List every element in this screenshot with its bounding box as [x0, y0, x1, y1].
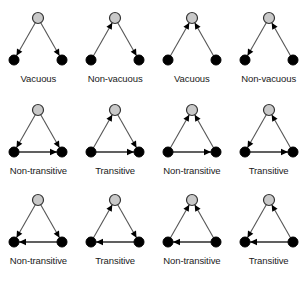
graph-panel-r1c4: Non-vacuous [230, 0, 307, 94]
graph-node-bottom-right [211, 237, 221, 247]
panel-label: Transitive [249, 165, 289, 176]
graph-node-bottom-right [288, 55, 298, 65]
directed-graph [233, 190, 305, 254]
panel-label: Non-vacuous [241, 73, 296, 84]
graph-node-bottom-left [86, 237, 96, 247]
arrow-head-icon [127, 149, 134, 156]
graph-node-bottom-right [134, 147, 144, 157]
arrow-head-icon [173, 239, 180, 246]
directed-graph [233, 8, 305, 72]
directed-graph [156, 8, 228, 72]
directed-graph [79, 100, 151, 164]
graph-node-bottom-left [240, 147, 250, 157]
directed-graph [233, 100, 305, 164]
panel-label: Non-transitive [10, 165, 67, 176]
graph-node-top [33, 13, 44, 24]
panel-label: Transitive [95, 255, 135, 266]
graph-panel-r2c2: Transitive [77, 94, 154, 184]
panel-label: Transitive [249, 255, 289, 266]
arrow-head-icon [19, 239, 26, 246]
panel-label: Vacuous [174, 73, 210, 84]
arrow-head-icon [96, 239, 103, 246]
graph-panel-r2c1: Non-transitive [0, 94, 77, 184]
directed-graph [2, 8, 74, 72]
directed-graph [156, 190, 228, 254]
graph-node-bottom-left [86, 147, 96, 157]
graph-node-bottom-left [9, 147, 19, 157]
arrow-head-icon [204, 149, 211, 156]
graph-node-bottom-left [163, 147, 173, 157]
graph-panel-r3c4: Transitive [230, 184, 307, 277]
arrow-head-icon [250, 239, 257, 246]
directed-graph [156, 100, 228, 164]
graph-node-bottom-left [240, 237, 250, 247]
graph-row-1: Vacuous Non-vacuous Vacuous Non-vacuous [0, 0, 307, 94]
arrow-head-icon [50, 149, 57, 156]
graph-node-bottom-right [57, 55, 67, 65]
graph-panel-r1c3: Vacuous [154, 0, 231, 94]
graph-node-bottom-right [134, 237, 144, 247]
graph-node-bottom-right [288, 147, 298, 157]
graph-panel-r3c2: Transitive [77, 184, 154, 277]
graph-panel-r2c4: Transitive [230, 94, 307, 184]
graph-panel-r3c1: Non-transitive [0, 184, 77, 277]
graph-node-bottom-right [134, 55, 144, 65]
panel-label: Non-transitive [163, 255, 220, 266]
graph-panel-r3c3: Non-transitive [154, 184, 231, 277]
graph-node-bottom-right [57, 237, 67, 247]
directed-graph [2, 190, 74, 254]
graph-node-bottom-right [211, 55, 221, 65]
graph-node-bottom-left [240, 55, 250, 65]
graph-node-top [263, 13, 274, 24]
panel-label: Vacuous [21, 73, 57, 84]
graph-row-3: Non-transitive Transitive Non-transitive… [0, 184, 307, 277]
graph-node-top [110, 195, 121, 206]
graph-panel-r2c3: Non-transitive [154, 94, 231, 184]
graph-node-bottom-right [57, 147, 67, 157]
graph-node-top [110, 105, 121, 116]
arrow-head-icon [281, 149, 288, 156]
directed-graph [79, 190, 151, 254]
directed-graph [79, 8, 151, 72]
graph-node-bottom-left [9, 237, 19, 247]
graph-node-bottom-right [211, 147, 221, 157]
graph-node-top [33, 195, 44, 206]
panel-label: Non-transitive [10, 255, 67, 266]
graph-node-top [263, 195, 274, 206]
graph-node-bottom-right [288, 237, 298, 247]
graph-node-top [186, 105, 197, 116]
graph-node-top [110, 13, 121, 24]
panel-label: Transitive [95, 165, 135, 176]
graph-node-bottom-left [163, 237, 173, 247]
panel-label: Non-vacuous [88, 73, 143, 84]
graph-node-top [186, 13, 197, 24]
graph-node-bottom-left [86, 55, 96, 65]
graph-panel-r1c2: Non-vacuous [77, 0, 154, 94]
graph-grid-figure: Vacuous Non-vacuous Vacuous Non-vacuous … [0, 0, 307, 281]
graph-panel-r1c1: Vacuous [0, 0, 77, 94]
graph-node-top [186, 195, 197, 206]
directed-graph [2, 100, 74, 164]
graph-node-bottom-left [163, 55, 173, 65]
graph-node-top [33, 105, 44, 116]
panel-label: Non-transitive [163, 165, 220, 176]
graph-node-top [263, 105, 274, 116]
graph-row-2: Non-transitive Transitive Non-transitive… [0, 94, 307, 184]
graph-node-bottom-left [9, 55, 19, 65]
